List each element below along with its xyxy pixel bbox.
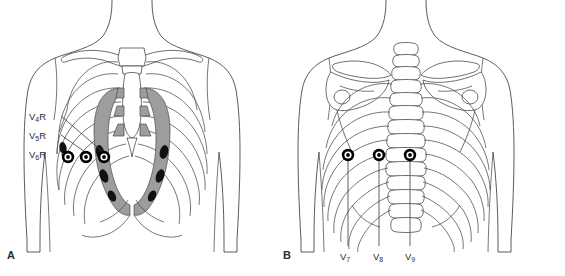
lead-label-v8: V8 bbox=[373, 252, 383, 262]
panel-b-posterior-torso bbox=[298, 0, 514, 252]
lead-label-v6r: V6R bbox=[29, 150, 46, 160]
sternum bbox=[118, 48, 146, 157]
lead-label-v4r: V4R bbox=[29, 112, 46, 122]
electrode-v7[interactable] bbox=[342, 149, 354, 161]
lead-label-v9-subscript: 9 bbox=[411, 256, 415, 263]
ecg-lead-placement-figure: .skin{fill:#ffffff;stroke:#4a4a4a;stroke… bbox=[0, 0, 565, 276]
panel-a-letter: A bbox=[7, 250, 15, 261]
vertebral-column bbox=[386, 43, 427, 233]
lead-label-v7: V7 bbox=[340, 252, 350, 262]
panel-b-letter: B bbox=[283, 250, 291, 261]
lead-label-v4r-suffix: R bbox=[39, 111, 46, 122]
lead-label-v7-subscript: 7 bbox=[346, 256, 350, 263]
lead-label-v6r-suffix: R bbox=[39, 149, 46, 160]
lead-label-v6r-subscript: 6 bbox=[35, 154, 39, 161]
electrode-v6r[interactable] bbox=[98, 151, 110, 163]
electrode-v4r[interactable] bbox=[62, 151, 74, 163]
electrode-v9[interactable] bbox=[404, 149, 416, 161]
electrode-v8[interactable] bbox=[373, 149, 385, 161]
lead-label-v8-subscript: 8 bbox=[379, 256, 383, 263]
lead-label-v5r-subscript: 5 bbox=[35, 135, 39, 142]
lead-label-v9: V9 bbox=[405, 252, 415, 262]
electrode-v5r[interactable] bbox=[80, 151, 92, 163]
lead-label-v5r: V5R bbox=[29, 131, 46, 141]
lead-label-v4r-subscript: 4 bbox=[35, 116, 39, 123]
costal-margin bbox=[82, 200, 182, 237]
panel-a-anterior-torso bbox=[24, 0, 240, 252]
lead-label-v5r-suffix: R bbox=[39, 130, 46, 141]
